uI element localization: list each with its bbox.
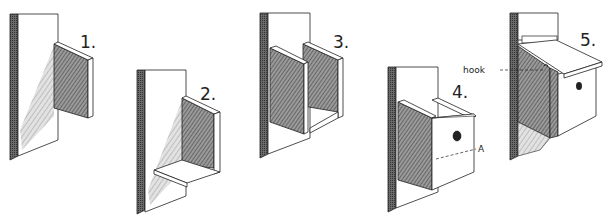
step-2-label: 2. (200, 84, 216, 104)
entrance-hole (453, 131, 461, 141)
entrance-hole-5 (576, 82, 582, 90)
step-5-drawing: hook 5. (463, 13, 602, 160)
step-4-drawing: A 4. (388, 67, 485, 212)
step-3-label: 3. (333, 32, 349, 52)
point-a-label: A (478, 144, 485, 154)
step-5-label: 5. (580, 30, 596, 50)
step-3-drawing: 3. (260, 13, 349, 158)
step-1-drawing: 1. (10, 14, 96, 160)
step-2-drawing: 2. (137, 70, 220, 214)
step-1-label: 1. (80, 32, 96, 52)
diagram-canvas: 1. 2. 3. A 4. (0, 0, 608, 223)
hook-label: hook (463, 65, 486, 75)
step-4-label: 4. (452, 82, 468, 102)
